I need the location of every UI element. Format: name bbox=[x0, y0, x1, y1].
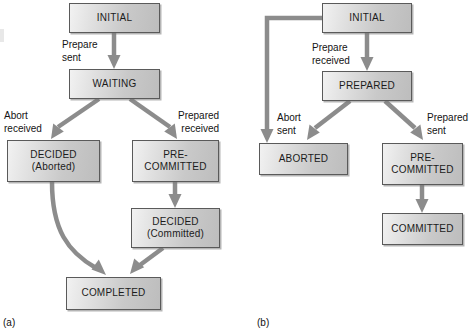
edge-label-line1: Prepared bbox=[178, 110, 219, 123]
state-label-line2: COMMITTED bbox=[391, 164, 453, 177]
edge-a-waiting-to-precommitted bbox=[130, 99, 170, 127]
edge-a-waiting-to-decided-aborted bbox=[58, 99, 99, 127]
state-label-line1: DECIDED bbox=[152, 216, 198, 229]
state-label-line1: WAITING bbox=[93, 78, 137, 91]
edge-label-line2: sent bbox=[62, 52, 98, 65]
edge-label-line2: sent bbox=[427, 125, 468, 138]
arrowhead-a-decided-aborted-to-completed bbox=[92, 260, 107, 276]
state-node-a-initial[interactable]: INITIAL bbox=[69, 3, 160, 33]
figure-canvas: INITIAL WAITING DECIDED (Aborted) PRE- C… bbox=[0, 0, 470, 335]
state-node-a-precommitted[interactable]: PRE- COMMITTED bbox=[132, 140, 219, 182]
edge-label-b-abort-sent: Abort sent bbox=[277, 112, 301, 137]
arrowhead-b-precommitted-to-committed bbox=[416, 199, 429, 213]
state-node-b-prepared[interactable]: PREPARED bbox=[322, 71, 412, 101]
edge-label-line1: Prepare bbox=[62, 39, 98, 52]
edge-b-prepared-to-precommitted bbox=[385, 101, 415, 128]
edge-b-prepared-to-aborted bbox=[315, 101, 350, 128]
state-node-a-waiting[interactable]: WAITING bbox=[69, 69, 160, 99]
state-label-line1: INITIAL bbox=[97, 12, 132, 25]
state-node-b-aborted[interactable]: ABORTED bbox=[259, 143, 348, 175]
state-node-b-precommitted[interactable]: PRE- COMMITTED bbox=[382, 143, 463, 185]
state-label-line1: PRE- bbox=[163, 149, 188, 162]
edge-a-decided-aborted-to-completed bbox=[52, 182, 96, 268]
state-node-b-initial[interactable]: INITIAL bbox=[322, 3, 412, 33]
state-label-line1: DECIDED bbox=[30, 149, 76, 162]
state-label-line2: (Committed) bbox=[147, 228, 204, 241]
state-node-a-completed[interactable]: COMPLETED bbox=[66, 277, 161, 310]
edge-label-line2: received bbox=[4, 123, 42, 136]
edge-label-a-prepare-sent: Prepare sent bbox=[62, 39, 98, 64]
edge-label-b-prepare-received: Prepare received bbox=[312, 42, 350, 67]
panel-caption-a: (a) bbox=[3, 317, 15, 328]
state-label-line1: PRE- bbox=[410, 152, 435, 165]
state-node-a-decided-aborted[interactable]: DECIDED (Aborted) bbox=[7, 140, 100, 182]
state-label-line2: (Aborted) bbox=[32, 161, 76, 174]
arrowhead-a-precommitted-to-decided-committed bbox=[169, 194, 182, 208]
state-label-line1: ABORTED bbox=[279, 153, 329, 166]
arrowhead-b-initial-to-prepared bbox=[361, 57, 374, 71]
edge-label-b-prepared-sent: Prepared sent bbox=[427, 112, 468, 137]
state-node-a-decided-committed[interactable]: DECIDED (Committed) bbox=[131, 208, 220, 248]
edge-a-decided-committed-to-completed bbox=[140, 248, 163, 265]
panel-caption-b: (b) bbox=[257, 317, 269, 328]
state-node-b-committed[interactable]: COMMITTED bbox=[382, 213, 463, 245]
arrowhead-a-initial-to-waiting bbox=[108, 55, 121, 69]
edge-label-a-abort-received: Abort received bbox=[4, 110, 42, 135]
edge-label-line2: received bbox=[178, 123, 219, 136]
state-label-line1: PREPARED bbox=[339, 80, 395, 93]
edge-label-line1: Prepare bbox=[312, 42, 350, 55]
edge-label-a-prepared-received: Prepared received bbox=[178, 110, 219, 135]
state-label-line2: COMMITTED bbox=[144, 161, 206, 174]
edge-label-line2: sent bbox=[277, 125, 301, 138]
edge-label-line1: Abort bbox=[4, 110, 42, 123]
edge-label-line1: Prepared bbox=[427, 112, 468, 125]
state-label-line1: COMPLETED bbox=[81, 287, 145, 300]
state-label-line1: INITIAL bbox=[349, 12, 384, 25]
arrowhead-b-initial-to-aborted bbox=[261, 129, 274, 143]
edge-label-line2: received bbox=[312, 55, 350, 68]
edge-label-line1: Abort bbox=[277, 112, 301, 125]
state-label-line1: COMMITTED bbox=[391, 223, 453, 236]
